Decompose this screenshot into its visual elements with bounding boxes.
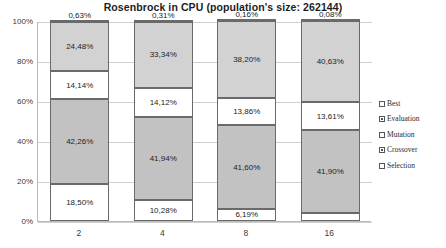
bar-segment-selection[interactable]: 6,19% [217, 209, 276, 221]
bar-segment-selection[interactable]: 18,50% [50, 184, 109, 221]
bar-segment-crossover[interactable]: 41,60% [217, 125, 276, 208]
bar-segment-crossover[interactable]: 41,94% [134, 117, 193, 201]
bar-segment-mutation[interactable]: 13,61% [301, 102, 360, 129]
bar-segment-selection[interactable]: 3,79% [301, 213, 360, 221]
x-axis-tick-label: 2 [49, 228, 108, 238]
chart-container: Rosenbrock in CPU (population's size: 26… [0, 0, 446, 248]
bar-segment-evaluation[interactable]: 38,20% [217, 21, 276, 97]
bar-segment-best[interactable]: 0,16% [217, 19, 276, 21]
bar-segment-label: 0,63% [68, 11, 91, 20]
legend-item-label: Selection [387, 162, 415, 170]
x-axis-tick-label: 16 [300, 228, 359, 238]
bar-segment-selection[interactable]: 10,28% [134, 200, 193, 221]
bar-segment-label: 14,14% [66, 81, 93, 90]
bar-stack[interactable]: 3,79%41,90%13,61%40,63%0,08% [301, 21, 360, 221]
bar-segment-label: 42,26% [66, 137, 93, 146]
legend-item[interactable]: Crossover [379, 143, 445, 159]
bar-segment-mutation[interactable]: 14,14% [50, 71, 109, 99]
bar-segment-mutation[interactable]: 14,12% [134, 88, 193, 116]
x-axis-tick-label: 4 [133, 228, 192, 238]
bar-segment-label: 13,61% [317, 112, 344, 121]
bar-segment-label: 38,20% [233, 55, 260, 64]
bar-segment-label: 18,50% [66, 198, 93, 207]
bar-segment-best[interactable]: 0,08% [301, 19, 360, 21]
x-axis-tick-label: 8 [216, 228, 275, 238]
y-axis-tick-label: 100% [3, 18, 33, 26]
bar-segment-label: 0,16% [235, 10, 258, 19]
bar-stack[interactable]: 18,50%42,26%14,14%24,48%0,63% [50, 21, 109, 221]
bar-segment-label: 0,08% [319, 10, 342, 19]
legend-swatch-icon [379, 147, 385, 153]
bar-stack[interactable]: 10,28%41,94%14,12%33,34%0,31% [134, 21, 193, 221]
y-axis-tick-label: 60% [3, 98, 33, 106]
legend: BestEvaluationMutationCrossoverSelection [379, 96, 445, 174]
bar-segment-mutation[interactable]: 13,86% [217, 98, 276, 126]
bar-segment-best[interactable]: 0,31% [134, 20, 193, 22]
bar-segment-evaluation[interactable]: 33,34% [134, 22, 193, 89]
bar-segment-label: 24,48% [66, 42, 93, 51]
legend-item-label: Mutation [387, 131, 415, 139]
y-axis-tick-label: 20% [3, 178, 33, 186]
bar-segment-label: 41,90% [317, 167, 344, 176]
bar-segment-label: 40,63% [317, 57, 344, 66]
bar-segment-label: 41,60% [233, 163, 260, 172]
bar-stack[interactable]: 6,19%41,60%13,86%38,20%0,16% [217, 21, 276, 221]
legend-item[interactable]: Evaluation [379, 112, 445, 128]
legend-item-label: Best [387, 100, 400, 108]
y-axis-tick-label: 80% [3, 58, 33, 66]
legend-swatch-icon [379, 101, 385, 107]
legend-item[interactable]: Best [379, 96, 445, 112]
legend-item-label: Evaluation [387, 115, 420, 123]
legend-swatch-icon [379, 116, 385, 122]
legend-swatch-icon [379, 132, 385, 138]
legend-item[interactable]: Selection [379, 158, 445, 174]
legend-item-label: Crossover [387, 146, 417, 154]
legend-item[interactable]: Mutation [379, 127, 445, 143]
bar-segment-evaluation[interactable]: 24,48% [50, 22, 109, 71]
bar-segment-label: 33,34% [150, 50, 177, 59]
bar-segment-crossover[interactable]: 41,90% [301, 130, 360, 214]
chart-title: Rosenbrock in CPU (population's size: 26… [0, 1, 446, 13]
y-axis-tick-label: 0% [3, 218, 33, 226]
bar-segment-label: 41,94% [150, 154, 177, 163]
bar-segment-label: 10,28% [150, 206, 177, 215]
legend-swatch-icon [379, 163, 385, 169]
bar-segment-label: 0,31% [152, 11, 175, 20]
y-axis-tick-label: 40% [3, 138, 33, 146]
plot-area: 18,50%42,26%14,14%24,48%0,63%10,28%41,94… [37, 22, 371, 222]
bar-segment-label: 13,86% [233, 107, 260, 116]
bar-segment-evaluation[interactable]: 40,63% [301, 21, 360, 102]
gridline [38, 222, 372, 223]
bar-segment-label: 14,12% [150, 98, 177, 107]
bar-segment-best[interactable]: 0,63% [50, 20, 109, 22]
bar-segment-crossover[interactable]: 42,26% [50, 99, 109, 184]
bar-segment-label: 6,19% [235, 210, 258, 219]
